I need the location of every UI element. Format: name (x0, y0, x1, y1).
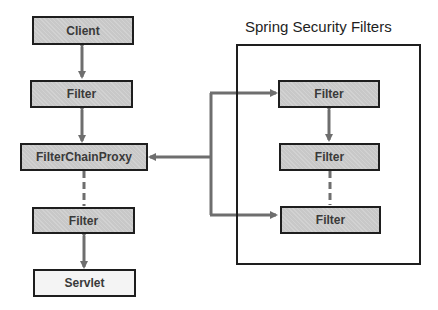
filter-box: Filter (30, 80, 133, 108)
filter-box: Filter (32, 207, 135, 234)
filter-chain-proxy-box: FilterChainProxy (20, 143, 148, 171)
security-filters-title: Spring Security Filters (245, 18, 392, 35)
security-filter-box: Filter (278, 80, 380, 108)
client-box: Client (32, 16, 134, 45)
servlet-box: Servlet (33, 269, 136, 297)
security-filter-box: Filter (279, 143, 380, 171)
security-filter-box: Filter (280, 206, 381, 234)
